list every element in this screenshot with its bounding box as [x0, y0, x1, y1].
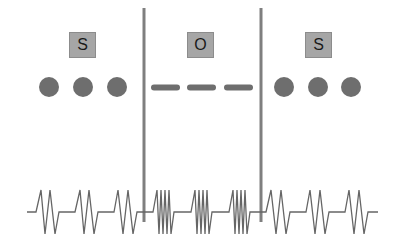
segment-label-text: O [194, 36, 206, 54]
segment-label-right: S [305, 32, 332, 58]
segment-label-center: O [187, 32, 214, 58]
segment-label-text: S [313, 36, 324, 54]
dash-marker-group-center [151, 85, 253, 91]
segment-label-left: S [69, 32, 96, 58]
diagram-canvas: S O S [0, 0, 396, 250]
segment-label-text: S [77, 36, 88, 54]
dot-marker-group-right [274, 77, 361, 97]
dot-marker-group-left [39, 77, 127, 97]
waveform-trace [27, 190, 378, 234]
